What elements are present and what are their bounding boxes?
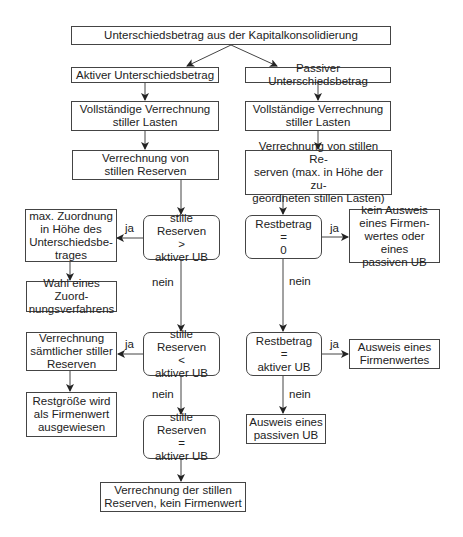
label-nein-2: nein: [152, 388, 174, 401]
decision-reserven-less: stille Reserven < aktiver UB: [143, 332, 220, 376]
box-kein-ausweis: kein Ausweis eines Firmen- wertes oder e…: [349, 209, 440, 263]
decision-reserven-greater: stille Reserven > aktiver UB: [143, 215, 220, 260]
label-ja-4: ja: [330, 338, 339, 351]
label-nein-4: nein: [289, 388, 311, 401]
box-kein-firmenwert: Verrechnung der stillen Reserven, kein F…: [100, 482, 246, 512]
label-ja-1: ja: [125, 222, 134, 235]
box-aktiver-ub: Aktiver Unterschiedsbetrag: [71, 67, 219, 83]
box-right-verrechnung-reserven: Verrechnung von stillen Re- serven (max.…: [245, 150, 392, 195]
box-passiver-ub: Passiver Unterschiedsbetrag: [245, 67, 391, 83]
decision-restbetrag-zero: Restbetrag = 0: [245, 215, 322, 259]
decision-restbetrag-aktiver-ub: Restbetrag = aktiver UB: [246, 332, 322, 376]
box-restgroesse-firmenwert: Restgröße wird als Firmenwert ausgewiese…: [26, 392, 117, 437]
box-max-zuordnung: max. Zuordnung in Höhe des Unterschiedsb…: [25, 209, 117, 262]
connector-arrows: [0, 0, 463, 537]
box-wahl-zuordnungsverfahren: Wahl eines Zuord- nungsverfahrens: [26, 281, 117, 312]
box-ausweis-passiver-ub: Ausweis eines passiven UB: [246, 414, 326, 444]
box-ausweis-firmenwert: Ausweis eines Firmenwertes: [349, 339, 440, 369]
box-verrechnung-saemtlicher: Verrechnung sämtlicher stiller Reserven: [26, 332, 117, 371]
root-box-unterschiedsbetrag: Unterschiedsbetrag aus der Kapitalkonsol…: [71, 26, 391, 45]
label-ja-3: ja: [330, 222, 339, 235]
decision-reserven-equal: stille Reserven = aktiver UB: [143, 415, 220, 459]
label-ja-2: ja: [125, 338, 134, 351]
label-nein-1: nein: [152, 276, 174, 289]
box-right-verrechnung-lasten: Vollständige Verrechnung stiller Lasten: [245, 101, 391, 131]
box-left-verrechnung-lasten: Vollständige Verrechnung stiller Lasten: [71, 101, 219, 131]
box-left-verrechnung-reserven: Verrechnung von stillen Reserven: [72, 150, 219, 180]
label-nein-3: nein: [289, 275, 311, 288]
